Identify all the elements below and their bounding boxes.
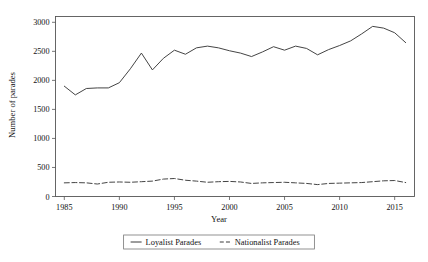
y-tick-label: 2500 xyxy=(33,47,49,56)
legend-label-1[interactable]: Nationalist Parades xyxy=(235,238,300,247)
chart-figure: 050010001500200025003000 198519901995200… xyxy=(0,0,428,262)
y-tick-label: 1000 xyxy=(33,134,49,143)
x-tick-label: 2000 xyxy=(221,203,237,212)
y-axis-title: Number of parades xyxy=(7,71,17,138)
plot-frame xyxy=(56,17,415,197)
series-group xyxy=(64,26,405,184)
y-tick-label: 1500 xyxy=(33,105,49,114)
x-axis-ticks: 1985199019952000200520102015 xyxy=(56,197,403,212)
x-tick-label: 2005 xyxy=(276,203,292,212)
line-chart: 050010001500200025003000 198519901995200… xyxy=(0,0,428,262)
series-line-0 xyxy=(64,26,405,95)
legend-label-0[interactable]: Loyalist Parades xyxy=(146,238,202,247)
y-tick-label: 0 xyxy=(45,193,49,202)
y-tick-label: 2000 xyxy=(33,76,49,85)
x-tick-label: 1995 xyxy=(166,203,182,212)
x-axis-title: Year xyxy=(211,214,227,224)
chart-legend[interactable]: Loyalist ParadesNationalist Parades xyxy=(124,235,315,249)
x-tick-label: 1990 xyxy=(111,203,127,212)
series-line-1 xyxy=(64,179,405,185)
y-tick-label: 500 xyxy=(37,163,49,172)
x-tick-label: 2010 xyxy=(331,203,347,212)
y-tick-label: 3000 xyxy=(33,18,49,27)
y-axis-ticks: 050010001500200025003000 xyxy=(33,18,55,201)
x-tick-label: 1985 xyxy=(56,203,72,212)
x-tick-label: 2015 xyxy=(386,203,402,212)
